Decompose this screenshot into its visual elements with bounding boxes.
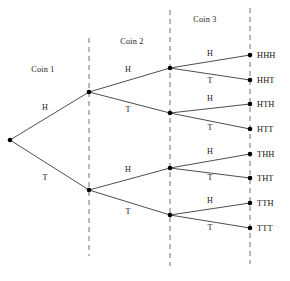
- branch-label-edge-root-T: T: [42, 173, 47, 182]
- tree-node-T: [87, 188, 92, 193]
- tree-node-THH: [248, 152, 253, 157]
- stage-label-coin-3: Coin 3: [193, 15, 216, 24]
- tree-branch-edge-HT-HTH: [170, 104, 250, 113]
- tree-branch-edge-root-H: [10, 92, 89, 140]
- tree-node-HTH: [248, 102, 253, 107]
- outcome-HTT: HTT: [257, 125, 274, 134]
- tree-node-HHT: [248, 78, 253, 83]
- tree-node-TTH: [248, 201, 253, 206]
- branch-label-edge-TT-TTT: T: [207, 223, 212, 232]
- outcome-THH: THH: [257, 150, 275, 159]
- tree-diagram-canvas: HTHTHTHTHTHTHT Coin 1Coin 2Coin 3 HHHHHT…: [0, 0, 290, 281]
- tree-node-TH: [168, 166, 173, 171]
- branch-label-edge-HT-HTT: T: [207, 123, 212, 132]
- outcome-TTH: TTH: [257, 199, 274, 208]
- tree-node-TTT: [248, 226, 253, 231]
- edge-label-group: HTHTHTHTHTHTHT: [42, 49, 213, 232]
- tree-edge-group: [10, 55, 250, 228]
- outcome-HHT: HHT: [257, 76, 275, 85]
- stage-label-coin-1: Coin 1: [31, 65, 54, 74]
- branch-label-edge-H-HH: H: [125, 65, 131, 74]
- tree-node-HH: [168, 66, 173, 71]
- outcome-TTT: TTT: [257, 224, 273, 233]
- tree-branch-edge-root-T: [10, 140, 89, 190]
- stage-label-coin-2: Coin 2: [120, 37, 143, 46]
- branch-label-edge-TH-THH: H: [207, 147, 213, 156]
- tree-node-root: [8, 138, 13, 143]
- branch-label-edge-T-TH: H: [125, 165, 131, 174]
- tree-node-HHH: [248, 53, 253, 58]
- tree-node-HT: [168, 111, 173, 116]
- tree-node-group: [8, 53, 253, 231]
- branch-label-edge-T-TT: T: [125, 207, 130, 216]
- branch-label-edge-HH-HHT: T: [207, 76, 212, 85]
- coin-flip-tree-diagram: HTHTHTHTHTHTHT Coin 1Coin 2Coin 3 HHHHHT…: [0, 0, 290, 281]
- branch-label-edge-TT-TTH: H: [207, 196, 213, 205]
- tree-node-THT: [248, 176, 253, 181]
- outcome-HHH: HHH: [257, 51, 275, 60]
- branch-label-edge-root-H: H: [42, 103, 48, 112]
- tree-branch-edge-TH-THH: [170, 154, 250, 168]
- branch-label-edge-H-HT: T: [125, 105, 130, 114]
- branch-label-edge-HT-HTH: H: [207, 94, 213, 103]
- tree-node-HTT: [248, 127, 253, 132]
- tree-node-TT: [168, 213, 173, 218]
- branch-label-edge-TH-THT: T: [207, 173, 212, 182]
- outcome-label-group: HHHHHTHTHHTTTHHTHTTTHTTT: [257, 51, 275, 233]
- outcome-HTH: HTH: [257, 100, 275, 109]
- tree-node-H: [87, 90, 92, 95]
- stage-divider-group: [89, 8, 250, 266]
- branch-label-edge-HH-HHH: H: [207, 49, 213, 58]
- outcome-THT: THT: [257, 174, 274, 183]
